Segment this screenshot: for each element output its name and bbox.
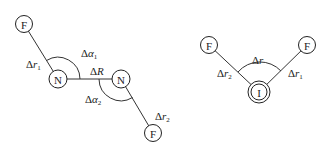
atom-label: F [150,128,156,140]
atom-f-right: F [299,37,316,54]
atom-f-bottom: F [145,125,162,142]
left-molecule: F N N F Δr1 Δα1 ΔR Δα2 Δr2 [16,16,171,142]
coord-label-dr1: Δr1 [26,58,41,72]
atom-label: N [117,74,125,86]
coord-label-dr2: Δr2 [217,67,232,81]
atom-f-top: F [16,16,33,33]
coord-label-dalpha1: Δα1 [81,47,98,61]
atom-label: N [54,74,62,86]
coord-label-dr: Δr [252,54,264,66]
atom-label: F [206,40,212,52]
atom-label: F [304,40,310,52]
coord-label-dR: ΔR [90,65,104,77]
coord-label-dalpha2: Δα2 [85,93,102,107]
coord-label-dr2: Δr2 [155,110,170,124]
atom-n-left: N [49,70,67,88]
atom-label: I [257,87,261,99]
atom-n-right: N [112,70,130,88]
bond-f-n-left [24,24,58,79]
right-molecule: F F I Δr Δr2 Δr1 [201,37,316,104]
internal-coordinates-diagram: F N N F Δr1 Δα1 ΔR Δα2 Δr2 F [0,0,331,154]
atom-label: F [21,19,27,31]
coord-label-dr1: Δr1 [288,67,303,81]
atom-i-center: I [248,81,270,103]
atom-f-left: F [201,37,218,54]
